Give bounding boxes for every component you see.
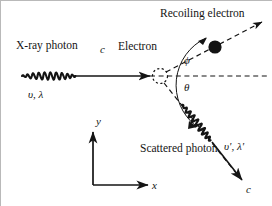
diagram-canvas xyxy=(0,0,272,206)
label-angle-phi: ϕ xyxy=(184,55,190,66)
label-angle-theta: θ xyxy=(184,82,189,93)
label-electron: Electron xyxy=(118,41,157,53)
label-scattered-photon: Scattered photon xyxy=(140,143,218,155)
coordinate-axes xyxy=(93,132,148,185)
label-xray-photon: X-ray photon xyxy=(16,40,78,52)
incident-photon-wave xyxy=(22,72,75,79)
label-axis-x: x xyxy=(152,180,157,191)
compton-scattering-figure: X-ray photon c υ, λ Electron Recoiling e… xyxy=(0,0,272,206)
label-incident-speed-c: c xyxy=(100,44,105,55)
label-axis-y: y xyxy=(96,116,101,127)
recoiling-electron-dot xyxy=(208,40,221,53)
label-recoiling-electron: Recoiling electron xyxy=(160,8,245,20)
label-incident-freq-wavelength: υ, λ xyxy=(28,89,43,100)
angle-arc-top-arrowhead xyxy=(198,38,207,46)
label-scattered-speed-c: c xyxy=(246,184,251,195)
scattered-photon-wave xyxy=(179,103,213,143)
label-scattered-freq-wavelength: υ', λ' xyxy=(224,141,244,152)
